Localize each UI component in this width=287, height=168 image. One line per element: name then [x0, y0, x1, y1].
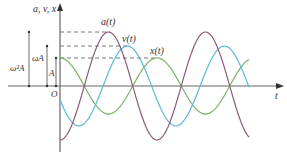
amp-v-label: ωA: [32, 53, 44, 63]
series-label-x: x(t): [149, 45, 165, 57]
series-label-a: a(t): [101, 16, 116, 28]
amp-a-label: ω²A: [10, 63, 25, 73]
amp-x-label: A: [48, 68, 55, 78]
x-axis-arrow-icon: [276, 83, 284, 89]
y-axis-label: a, v, x: [33, 3, 57, 14]
origin-label: O: [51, 89, 58, 99]
y-axis-arrow-icon: [57, 3, 63, 11]
sho-kinematics-chart: a, v, x t O ω²A ωA A a(t) v(t) x(t): [0, 0, 287, 168]
x-axis-label: t: [275, 90, 278, 101]
series-label-v: v(t): [122, 33, 137, 45]
